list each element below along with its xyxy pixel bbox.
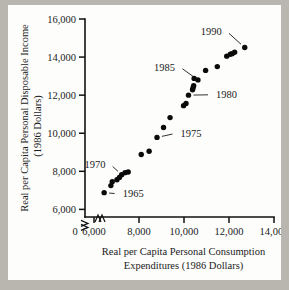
annotation-label-1985: 1985 [154,62,175,73]
data-point [154,135,159,140]
x-tick-label-6000: 6,000 [82,226,106,237]
origin-label: 0 [72,226,77,237]
x-axis-title-line1: Real per Capita Personal Consumption [102,246,266,257]
x-tick-label-12000: 12,000 [215,226,244,237]
x-tick-label-14000: 14,000 [260,226,281,237]
y-axis-title-line1: Real per Capita Personal Disposable Inco… [19,24,30,212]
annotation-label-1980: 1980 [216,89,237,100]
data-point [101,190,106,195]
y-tick-label-8000: 8,000 [52,166,76,177]
data-point [191,83,196,88]
y-tick-label-12000: 12,000 [47,90,76,101]
annotation-label-1975: 1975 [180,128,201,139]
data-point [242,45,247,50]
data-point [161,125,166,130]
y-tick-label-10000: 10,000 [47,128,76,139]
data-point [183,101,188,106]
data-point [139,152,144,157]
x-tick-label-10000: 10,000 [170,226,199,237]
data-point [167,115,172,120]
x-axis-break-icon-2 [99,215,105,222]
data-point [232,50,237,55]
annotation-leader-1985 [182,69,194,77]
data-point [195,77,200,82]
y-tick-label-14000: 14,000 [47,52,76,63]
chart-figure: 6,0008,00010,00012,00014,00016,0006,0008… [8,5,281,280]
y-tick-label-6000: 6,000 [52,204,76,215]
annotation-label-1990: 1990 [201,26,222,37]
x-tick-label-8000: 8,000 [127,226,151,237]
annotation-leader-1990 [229,33,241,44]
data-point [203,68,208,73]
data-point [186,92,191,97]
annotation-label-1970: 1970 [84,159,105,170]
annotation-leader-1975 [162,134,173,136]
data-point [110,179,115,184]
annotation-label-1965: 1965 [123,188,144,199]
annotation-leader-1970 [113,166,118,171]
data-point [215,64,220,69]
y-tick-label-16000: 16,000 [47,14,76,25]
scatter-plot: 6,0008,00010,00012,00014,00016,0006,0008… [8,5,281,280]
y-axis-title-line2: (1986 Dollars) [32,95,44,157]
x-axis-title-line2: Expenditures (1986 Dollars) [124,260,244,272]
data-point [146,149,151,154]
data-point [126,169,131,174]
